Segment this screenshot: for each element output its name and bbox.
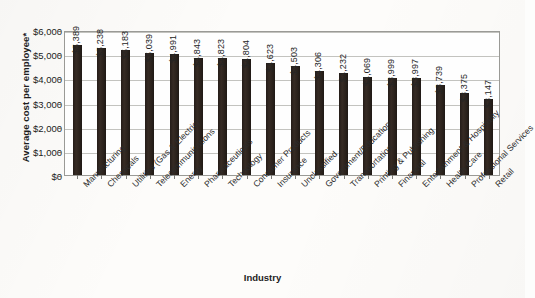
bar [145,53,154,175]
y-axis-tick-label: $4,000 [4,74,62,85]
bar [97,48,106,175]
y-axis-tick-label: $2,000 [4,122,62,133]
bar-value-label: $4,843 [192,39,202,67]
bar-value-label: $4,991 [168,35,178,63]
bar [73,45,82,175]
y-axis-tick-mark [58,152,62,153]
bar-value-label: $4,232 [338,54,348,82]
bar [121,50,130,175]
bar-value-label: $3,375 [459,74,469,102]
gridline [65,32,499,33]
y-axis-tick-mark [58,128,62,129]
y-axis-tick-mark [58,79,62,80]
bar-value-label: $4,306 [313,52,323,80]
y-axis-tick-layer: $6,000$5,000$4,000$3,000$2,000$1,000$0 [0,31,62,176]
bar-value-label: $3,739 [434,66,444,94]
bar-value-label: $4,804 [241,40,251,68]
bar-value-label: $4,069 [362,58,372,86]
bar-value-label: $4,623 [265,44,275,72]
y-axis-tick-label: $1,000 [4,146,62,157]
bar-value-label: $5,389 [71,26,81,54]
y-axis-tick-mark [58,55,62,56]
x-axis-title: Industry [0,272,525,283]
gridline [65,56,499,57]
y-axis-tick-mark [58,31,62,32]
bar-value-label: $4,503 [289,47,299,75]
bar-value-label: $3,997 [410,59,420,87]
y-axis-tick-label: $5,000 [4,50,62,61]
x-axis-category-layer: ManufacturingChemicalsUtilities (Gas & E… [0,176,525,286]
bar-value-label: $4,823 [216,39,226,67]
bar-value-label: $3,147 [483,80,493,108]
y-axis-tick-label: $6,000 [4,26,62,37]
y-axis-tick-mark [58,104,62,105]
y-axis-tick-label: $3,000 [4,98,62,109]
bar-value-label: $3,999 [386,59,396,87]
bar-value-label: $5,238 [95,29,105,57]
bar-value-label: $5,039 [144,34,154,62]
gridline [65,105,499,106]
bar-value-label: $5,183 [120,31,130,59]
